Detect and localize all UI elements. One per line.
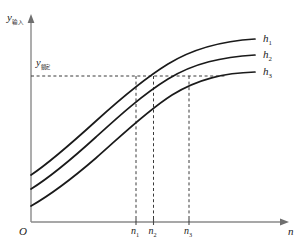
x-tick-n2-symbol: n	[149, 225, 154, 236]
y-axis-subscript: 输入	[12, 19, 23, 25]
curve-label-h2: h2	[263, 49, 272, 60]
rated-level-symbol: y	[36, 57, 41, 68]
x-tick-n1-subscript: 1	[136, 231, 139, 238]
chart-canvas	[0, 0, 303, 250]
speed-drop-lines-group	[136, 76, 189, 222]
origin-label: O	[19, 226, 27, 237]
axes-group	[28, 14, 289, 225]
curve-label-h1: h1	[263, 33, 272, 44]
curve-label-h3-symbol: h	[263, 65, 269, 77]
rated-level-subscript: 额定	[41, 64, 50, 70]
x-tick-n3-subscript: 3	[189, 231, 192, 238]
curve-h3	[31, 72, 255, 206]
curve-label-h2-subscript: 2	[269, 55, 272, 62]
x-tick-label-n3: n3	[184, 226, 192, 236]
x-tick-n2-subscript: 2	[154, 231, 157, 238]
curve-label-h3-subscript: 3	[269, 72, 272, 79]
y-axis-arrowhead	[28, 14, 35, 23]
curve-label-h1-subscript: 1	[269, 39, 272, 46]
x-axis-label: n	[288, 226, 294, 237]
y-axis-label: y输入	[7, 12, 23, 23]
rated-level-label: y额定	[36, 58, 50, 69]
curve-label-h3: h3	[263, 66, 272, 77]
curves-group	[31, 39, 255, 206]
x-tick-label-n1: n1	[131, 226, 139, 236]
curve-label-h1-symbol: h	[263, 32, 269, 44]
curve-label-h2-symbol: h	[263, 48, 269, 60]
x-tick-label-n2: n2	[149, 226, 157, 236]
chart-figure: y输入 y额定 O n h1 h2 h3 n1 n2 n3	[0, 0, 303, 250]
